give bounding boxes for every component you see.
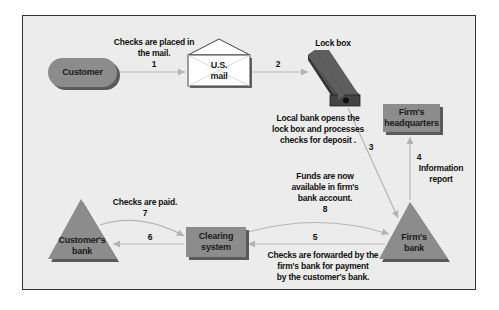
step-8-caption-line1: Funds are now [280, 171, 370, 182]
step-5-number: 5 [308, 232, 322, 243]
step-2-number: 2 [268, 59, 288, 70]
step-8-number: 8 [280, 204, 370, 215]
us-mail-label-line2: mail [188, 71, 250, 82]
step-1-caption-line2: the mail. [104, 48, 204, 59]
step-4-caption-line2: report [410, 174, 472, 185]
customers-bank-label-line2: bank [52, 246, 112, 257]
step-4-caption-line1: Information [410, 163, 472, 174]
lockbox-icon [308, 50, 360, 106]
customers-bank-label: Customer's bank [52, 235, 112, 257]
step-7-number: 7 [105, 208, 185, 219]
step-8-caption-line3: bank account. [280, 193, 370, 204]
clearing-system-label-line2: system [186, 242, 246, 253]
step-3-caption: Local bank opens the lock box and proces… [262, 113, 374, 146]
step-4-caption: Information report [410, 163, 472, 185]
step-1-number: 1 [104, 59, 204, 70]
clearing-system-label-line1: Clearing [186, 231, 246, 242]
step-5-caption-line2: firm's bank for payment [258, 261, 388, 272]
firms-bank-label-line2: bank [384, 243, 444, 254]
step-5-caption-line1: Checks are forwarded by the [258, 250, 388, 261]
step-5-caption: Checks are forwarded by the firm's bank … [258, 250, 388, 283]
step-3-caption-line1: Local bank opens the [262, 113, 374, 124]
step-1-caption-line1: Checks are placed in [104, 37, 204, 48]
clearing-system-label: Clearing system [186, 231, 246, 253]
step-8-caption: Funds are now available in firm's bank a… [280, 171, 370, 215]
firms-headquarters-label-line1: Firm's [383, 107, 440, 118]
firms-bank-label-line1: Firm's [384, 232, 444, 243]
step-8-caption-line2: available in firm's [280, 182, 370, 193]
step-6-number: 6 [143, 232, 157, 243]
step-3-caption-line2: lock box and processes [262, 124, 374, 135]
step-4-number: 4 [412, 152, 426, 163]
step-7-caption-text: Checks are paid. [105, 197, 185, 208]
arrow-7 [100, 220, 184, 236]
lockbox-label: Lock box [303, 38, 363, 49]
customers-bank-label-line1: Customer's [52, 235, 112, 246]
step-1-caption: Checks are placed in the mail. 1 [104, 37, 204, 70]
firms-headquarters-label-line2: headquarters [383, 118, 440, 129]
step-5-caption-line3: by the customer's bank. [258, 272, 388, 283]
step-3-caption-line3: checks for deposit . [262, 135, 374, 146]
firms-headquarters-label: Firm's headquarters [383, 107, 440, 129]
step-3-number: 3 [364, 142, 378, 153]
step-7-caption: Checks are paid. 7 [105, 197, 185, 219]
firms-bank-label: Firm's bank [384, 232, 444, 254]
